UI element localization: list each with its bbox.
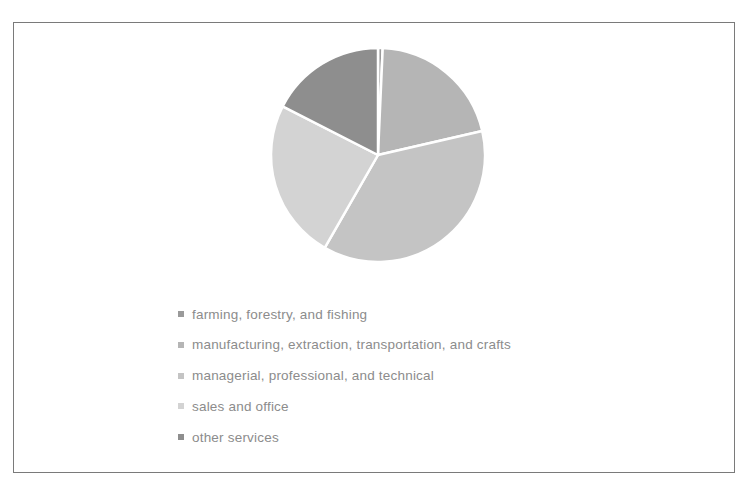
- legend-swatch-icon: [178, 311, 184, 317]
- legend-swatch-icon: [178, 342, 184, 348]
- legend-label: other services: [192, 430, 279, 445]
- chart-legend: farming, forestry, and fishing manufactu…: [178, 299, 511, 453]
- legend-item-sales-office: sales and office: [178, 391, 511, 421]
- legend-label: sales and office: [192, 399, 289, 414]
- legend-label: manufacturing, extraction, transportatio…: [192, 337, 511, 352]
- legend-swatch-icon: [178, 434, 184, 440]
- legend-item-managerial: managerial, professional, and technical: [178, 361, 511, 391]
- legend-item-farming: farming, forestry, and fishing: [178, 299, 511, 329]
- legend-item-manufacturing: manufacturing, extraction, transportatio…: [178, 330, 511, 360]
- legend-swatch-icon: [178, 403, 184, 409]
- legend-label: farming, forestry, and fishing: [192, 307, 367, 322]
- legend-swatch-icon: [178, 373, 184, 379]
- legend-item-other-services: other services: [178, 422, 511, 452]
- pie-slices: [271, 48, 485, 262]
- legend-label: managerial, professional, and technical: [192, 368, 434, 383]
